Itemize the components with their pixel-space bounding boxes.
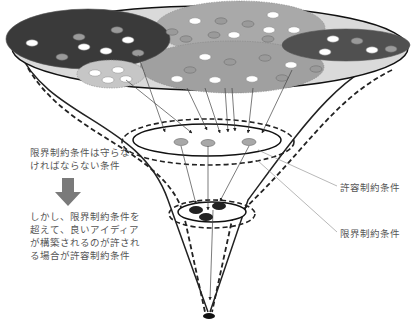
leader-allowable (258, 150, 337, 186)
cluster-light-small (77, 60, 145, 88)
down-arrow-icon (55, 178, 81, 206)
allowable-constraint-note: しかし、限界制約条件を 超えて、良いアイディア が構築されるのが許され る場合が… (30, 210, 140, 262)
note-line: 超えて、良いアイディア (30, 223, 140, 236)
final-solution-point (203, 313, 215, 319)
leader-limit (257, 160, 337, 232)
limit-constraint-note: 限界制約条件は守らな ければならない条件 (30, 146, 130, 172)
note-line: しかし、限界制約条件を (30, 210, 140, 223)
note-line: ければならない条件 (30, 159, 130, 172)
cluster-dark-right (282, 29, 410, 61)
cluster-dark-left (6, 9, 170, 69)
note-line: が構築されるのが許され (30, 236, 140, 249)
note-line: る場合が許容制約条件 (30, 249, 140, 262)
allowable-constraint-label: 許容制約条件 (340, 181, 400, 194)
selection-arrows-bottom (181, 146, 249, 300)
limit-constraint-label: 限界制約条件 (340, 227, 400, 240)
note-line: 限界制約条件は守らな (30, 146, 130, 159)
